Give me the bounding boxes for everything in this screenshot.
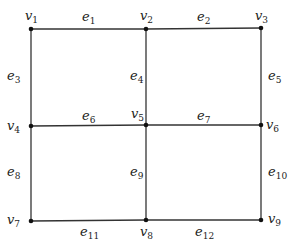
vertex-v4 <box>29 124 34 129</box>
edge-label-e12: e12 <box>195 224 214 241</box>
edge-e11 <box>31 220 146 221</box>
vertex-v1 <box>29 27 34 32</box>
edge-label-e9: e9 <box>130 164 144 181</box>
vertex-label-v5: v5 <box>131 106 144 123</box>
edge-label-e3: e3 <box>7 68 21 85</box>
vertex-v7 <box>29 219 34 224</box>
edge-label-e4: e4 <box>130 68 144 85</box>
edge-label-e6: e6 <box>82 108 96 125</box>
vertex-v9 <box>259 218 264 223</box>
vertex-label-v8: v8 <box>140 224 153 241</box>
edge-e6 <box>31 125 146 126</box>
vertex-label-v4: v4 <box>7 118 20 135</box>
edge-label-e8: e8 <box>7 164 21 181</box>
edge-label-e5: e5 <box>268 68 282 85</box>
vertex-label-v7: v7 <box>7 212 20 229</box>
edge-label-e7: e7 <box>197 108 211 125</box>
vertex-v2 <box>144 27 149 32</box>
grid-graph-diagram: e1e2e3e4e5e6e7e8e9e10e11e12v1v2v3v4v5v6v… <box>0 0 294 248</box>
vertex-v5 <box>144 123 149 128</box>
edge-label-e2: e2 <box>197 9 210 26</box>
vertex-label-v6: v6 <box>266 117 279 134</box>
edge-label-e11: e11 <box>80 224 99 241</box>
vertex-v6 <box>259 123 264 128</box>
edge-label-e10: e10 <box>268 164 287 181</box>
vertex-v8 <box>144 218 149 223</box>
vertex-v3 <box>259 26 264 31</box>
edge-e2 <box>146 28 261 29</box>
edge-label-e1: e1 <box>82 9 95 26</box>
graph-svg: e1e2e3e4e5e6e7e8e9e10e11e12v1v2v3v4v5v6v… <box>0 0 294 248</box>
vertex-label-v2: v2 <box>140 8 153 25</box>
vertex-label-v9: v9 <box>268 211 281 228</box>
vertex-label-v1: v1 <box>25 8 38 25</box>
vertex-label-v3: v3 <box>255 8 268 25</box>
